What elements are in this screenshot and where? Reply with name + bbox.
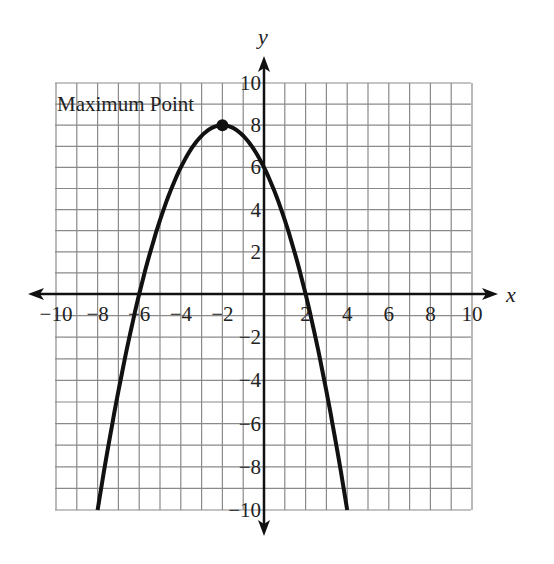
y-axis-label: y: [256, 24, 268, 49]
parabola-chart: −10−8−6−4−2246810108642−2−4−6−8−10 Maxim…: [0, 0, 554, 564]
maximum-point-label: Maximum Point: [57, 92, 194, 116]
x-tick-label: −2: [211, 302, 233, 326]
x-tick-label: 10: [462, 302, 483, 326]
x-tick-label: −8: [86, 302, 108, 326]
x-tick-label: 8: [425, 302, 436, 326]
x-tick-label: 6: [384, 302, 395, 326]
y-tick-label: 10: [240, 71, 261, 95]
y-tick-label: −8: [239, 455, 261, 479]
y-tick-label: 4: [251, 198, 262, 222]
x-tick-label: 4: [342, 302, 353, 326]
maximum-point-marker: [216, 119, 228, 131]
y-tick-label: 2: [251, 240, 262, 264]
y-tick-label: −4: [239, 368, 262, 392]
x-tick-label: −4: [170, 302, 193, 326]
x-tick-label: −10: [40, 302, 73, 326]
y-tick-label: −10: [228, 498, 261, 522]
x-axis-label: x: [505, 282, 516, 307]
y-tick-label: −6: [239, 412, 261, 436]
y-tick-label: 8: [251, 113, 262, 137]
y-tick-label: −2: [239, 325, 261, 349]
axes: [28, 56, 498, 536]
